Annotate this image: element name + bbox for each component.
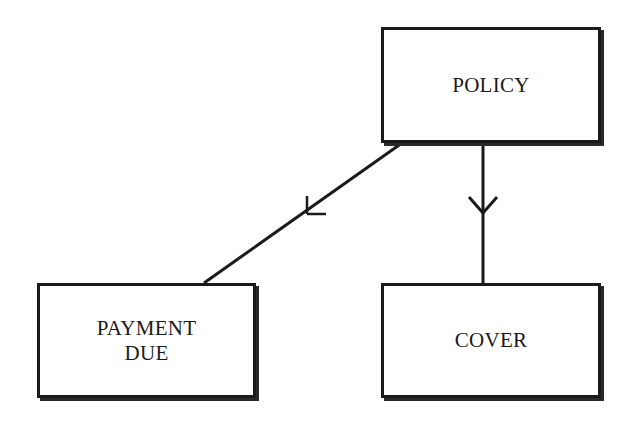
entity-payment-due: PAYMENT DUE <box>37 283 256 398</box>
entity-policy: POLICY <box>381 27 601 143</box>
entity-payment-due-label: PAYMENT DUE <box>97 316 197 366</box>
relationship-policy-payment-due-line <box>204 143 402 283</box>
entity-cover-label: COVER <box>455 328 528 353</box>
entity-policy-label: POLICY <box>452 73 530 98</box>
entity-cover: COVER <box>381 283 601 398</box>
er-diagram: POLICY PAYMENT DUE COVER <box>0 0 644 424</box>
